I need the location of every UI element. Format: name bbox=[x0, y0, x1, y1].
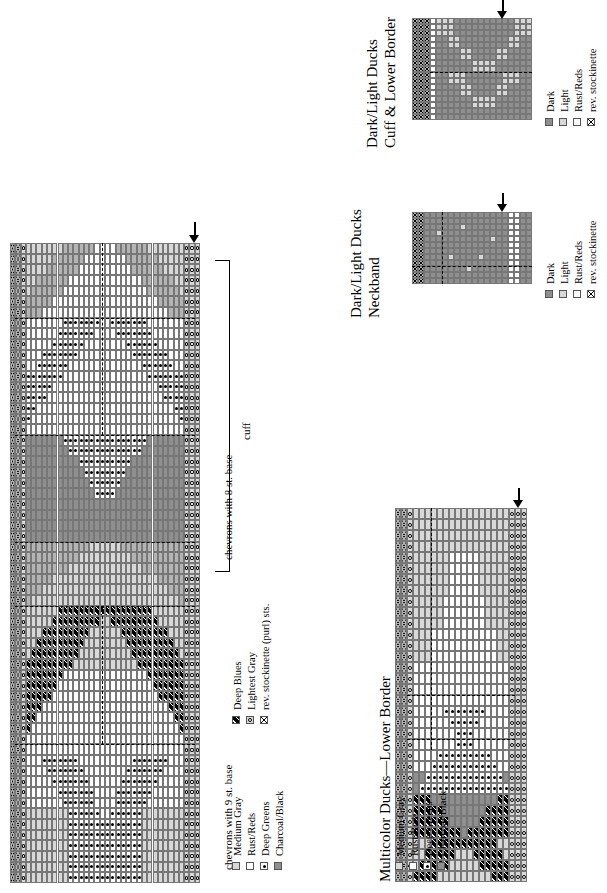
purl-stitch-icon bbox=[11, 607, 14, 616]
deep-greens-dot-icon bbox=[474, 751, 478, 760]
deep-greens-dot-icon bbox=[101, 873, 104, 882]
deep-greens-dot-icon bbox=[64, 767, 67, 776]
lightest-gray-circle-icon bbox=[196, 628, 199, 637]
deep-greens-dot-icon bbox=[154, 372, 157, 381]
lightest-gray-circle-icon bbox=[22, 671, 25, 680]
lightest-gray-circle-icon bbox=[190, 553, 193, 562]
deep-greens-dot-icon bbox=[80, 799, 83, 808]
chart-cell bbox=[521, 618, 527, 629]
chart-cell bbox=[195, 286, 200, 297]
lightest-gray-circle-icon bbox=[190, 468, 193, 477]
deep-greens-dot-icon bbox=[95, 863, 98, 872]
guide-dash-line bbox=[15, 318, 194, 319]
legend-swatch-light bbox=[559, 118, 567, 126]
lightest-gray-circle-icon bbox=[516, 850, 520, 859]
lightest-gray-circle-icon bbox=[22, 681, 25, 690]
chart-title-dl-cuff-line1: Dark/Light Ducks bbox=[364, 39, 381, 148]
lightest-gray-circle-icon bbox=[196, 404, 199, 413]
lightest-gray-circle-icon bbox=[190, 777, 193, 786]
legend-label-rust-reds: Rust/Reds bbox=[246, 813, 257, 856]
deep-greens-dot-icon bbox=[127, 873, 130, 882]
chart-cell bbox=[195, 627, 200, 638]
purl-stitch-icon bbox=[402, 696, 406, 705]
chart-cell bbox=[195, 542, 200, 553]
deep-blues-hatch-icon bbox=[456, 839, 460, 848]
deep-greens-dot-icon bbox=[122, 319, 125, 328]
lightest-gray-circle-icon bbox=[510, 685, 514, 694]
deep-blues-hatch-icon bbox=[127, 628, 130, 637]
deep-blues-hatch-icon bbox=[159, 671, 162, 680]
purl-stitch-icon bbox=[402, 707, 406, 716]
start-of-round-arrow bbox=[497, 0, 508, 20]
deep-greens-dot-icon bbox=[48, 756, 51, 765]
deep-greens-dot-icon bbox=[175, 383, 178, 392]
purl-stitch-icon bbox=[419, 231, 423, 235]
lightest-gray-circle-icon bbox=[22, 639, 25, 648]
deep-blues-hatch-icon bbox=[175, 713, 178, 722]
purl-stitch-icon bbox=[402, 619, 406, 628]
deep-greens-dot-icon bbox=[132, 831, 135, 840]
lightest-gray-circle-icon bbox=[185, 809, 188, 818]
purl-stitch-icon bbox=[419, 55, 423, 59]
chart-cell bbox=[195, 446, 200, 457]
deep-greens-dot-icon bbox=[138, 799, 141, 808]
purl-stitch-icon bbox=[11, 575, 14, 584]
deep-greens-dot-icon bbox=[85, 841, 88, 850]
lightest-gray-circle-icon bbox=[196, 617, 199, 626]
deep-greens-dot-icon bbox=[64, 777, 67, 786]
lightest-gray-circle-icon bbox=[185, 265, 188, 274]
lightest-gray-circle-icon bbox=[22, 457, 25, 466]
chart-title-multicolor-ducks: Multicolor Ducks—Lower Border bbox=[377, 676, 394, 882]
lightest-gray-circle-icon bbox=[522, 872, 526, 881]
purl-stitch-icon bbox=[402, 531, 406, 540]
deep-blues-hatch-icon bbox=[59, 628, 62, 637]
deep-greens-dot-icon bbox=[59, 788, 62, 797]
deep-blues-hatch-icon bbox=[69, 607, 72, 616]
deep-greens-dot-icon bbox=[69, 863, 72, 872]
purl-stitch-icon bbox=[413, 237, 417, 241]
deep-blues-hatch-icon bbox=[450, 850, 454, 859]
deep-greens-dot-icon bbox=[32, 372, 35, 381]
deep-blues-hatch-icon bbox=[117, 617, 120, 626]
purl-stitch-icon bbox=[16, 351, 19, 360]
deep-blues-hatch-icon bbox=[420, 872, 424, 881]
legend-swatch-deep-greens bbox=[423, 862, 431, 870]
lightest-gray-circle-icon bbox=[516, 553, 520, 562]
lightest-gray-circle-icon bbox=[196, 383, 199, 392]
chart-cell bbox=[195, 574, 200, 585]
purl-stitch-icon bbox=[396, 751, 400, 760]
deep-greens-dot-icon bbox=[90, 820, 93, 829]
lightest-gray-circle-icon bbox=[22, 873, 25, 882]
deep-blues-hatch-icon bbox=[169, 671, 172, 680]
lightest-gray-circle-icon bbox=[196, 468, 199, 477]
lightest-gray-circle-icon bbox=[516, 784, 520, 793]
purl-stitch-icon bbox=[425, 19, 429, 23]
deep-greens-dot-icon bbox=[468, 773, 472, 782]
deep-greens-dot-icon bbox=[27, 372, 30, 381]
lightest-gray-circle-icon bbox=[190, 265, 193, 274]
lightest-gray-circle-icon bbox=[510, 872, 514, 881]
purl-stitch-icon bbox=[425, 67, 429, 71]
purl-stitch-icon bbox=[16, 585, 19, 594]
deep-greens-dot-icon bbox=[74, 447, 77, 456]
deep-greens-dot-icon bbox=[117, 809, 120, 818]
deep-greens-dot-icon bbox=[69, 436, 72, 445]
deep-greens-dot-icon bbox=[90, 831, 93, 840]
chart-cell bbox=[521, 706, 527, 717]
deep-blues-hatch-icon bbox=[122, 617, 125, 626]
lightest-gray-circle-icon bbox=[516, 806, 520, 815]
deep-blues-hatch-icon bbox=[74, 639, 77, 648]
deep-greens-dot-icon bbox=[159, 361, 162, 370]
deep-greens-dot-icon bbox=[43, 361, 46, 370]
purl-stitch-icon bbox=[16, 671, 19, 680]
deep-greens-dot-icon bbox=[101, 479, 104, 488]
deep-greens-dot-icon bbox=[164, 393, 167, 402]
deep-greens-dot-icon bbox=[122, 799, 125, 808]
purl-stitch-icon bbox=[11, 703, 14, 712]
deep-blues-hatch-icon bbox=[474, 839, 478, 848]
lightest-gray-circle-icon bbox=[185, 596, 188, 605]
purl-stitch-icon bbox=[425, 37, 429, 41]
deep-greens-dot-icon bbox=[143, 777, 146, 786]
purl-stitch-icon bbox=[16, 329, 19, 338]
purl-stitch-icon bbox=[16, 511, 19, 520]
